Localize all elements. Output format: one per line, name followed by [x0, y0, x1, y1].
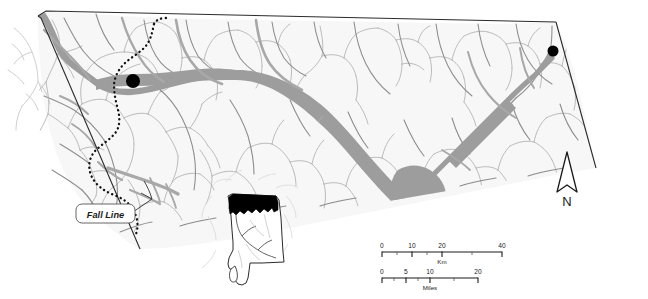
- scale-miles-tick-0: 0: [380, 268, 384, 275]
- site-marker-east: [548, 46, 559, 57]
- scale-km-unit: Km: [437, 258, 446, 265]
- scale-miles-tick-2: 10: [426, 268, 434, 275]
- scale-miles-unit: Miles: [423, 284, 437, 291]
- north-arrow-label: N: [562, 194, 571, 209]
- scale-miles-tick-1: 5: [404, 268, 408, 275]
- scale-km-tick-0: 0: [380, 242, 384, 249]
- tributaries-outside-west: [18, 40, 42, 104]
- scale-bar-miles: 0 5 10 20 Miles: [380, 268, 482, 291]
- scale-bar-km: 0 10 20 40 Km: [380, 242, 506, 265]
- scale-km-tick-3: 40: [498, 242, 506, 249]
- map-canvas: Fall Line N 0 10 20 40 Km: [0, 0, 648, 299]
- scale-km-tick-2: 20: [438, 242, 446, 249]
- map-figure: Fall Line N 0 10 20 40 Km: [0, 0, 648, 299]
- scale-miles-tick-3: 20: [474, 268, 482, 275]
- fall-line-label: Fall Line: [87, 210, 124, 220]
- scale-km-tick-1: 10: [408, 242, 416, 249]
- site-marker-west: [126, 74, 140, 88]
